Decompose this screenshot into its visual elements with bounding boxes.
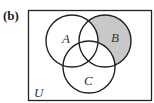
set-a-label: A — [61, 31, 70, 46]
part-label: (b) — [3, 8, 19, 23]
set-c-label: C — [84, 73, 93, 88]
set-b-label: B — [111, 30, 119, 45]
venn-diagram: (b) A B C U — [0, 0, 154, 103]
universe-label: U — [34, 85, 45, 100]
